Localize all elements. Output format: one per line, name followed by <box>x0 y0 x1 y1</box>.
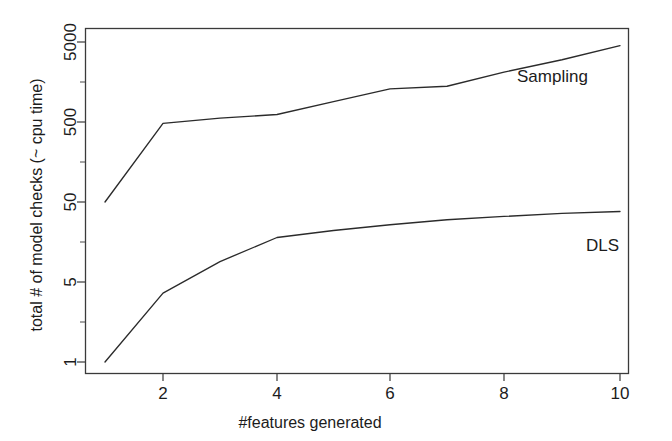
series-label-dls: DLS <box>586 236 619 255</box>
chart-container: 5000 500 50 5 1 total # of model checks … <box>0 0 672 441</box>
y-axis-title: total # of model checks (~ cpu time) <box>28 79 45 332</box>
x-tick-label-4: 4 <box>272 384 281 403</box>
x-tick-label-2: 2 <box>158 384 167 403</box>
series-line-dls <box>105 212 620 362</box>
x-axis-title: #features generated <box>238 414 381 431</box>
x-axis-tick-labels: 2 4 6 8 10 <box>158 384 629 403</box>
y-tick-label-5000: 5000 <box>61 23 80 61</box>
y-tick-label-5: 5 <box>61 277 80 286</box>
x-tick-label-10: 10 <box>611 384 630 403</box>
x-tick-label-8: 8 <box>499 384 508 403</box>
x-tick-label-6: 6 <box>385 384 394 403</box>
line-chart: 5000 500 50 5 1 total # of model checks … <box>0 0 672 441</box>
x-axis-ticks <box>163 373 620 381</box>
y-tick-label-50: 50 <box>61 193 80 212</box>
series-label-sampling: Sampling <box>517 67 588 86</box>
y-tick-label-500: 500 <box>61 108 80 136</box>
y-tick-label-1: 1 <box>61 357 80 366</box>
y-axis-tick-labels: 5000 500 50 5 1 <box>61 23 80 367</box>
